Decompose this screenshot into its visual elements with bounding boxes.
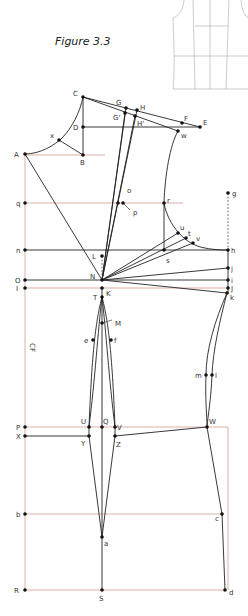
- point-label: h: [231, 247, 235, 255]
- point-marker: [100, 535, 104, 539]
- point-label: g: [232, 190, 236, 198]
- point-marker: [23, 248, 27, 252]
- point-label: c: [215, 515, 219, 523]
- point-label: p: [133, 209, 138, 217]
- point-marker: [100, 254, 104, 258]
- point-label: R: [14, 587, 19, 595]
- point-marker: [100, 286, 104, 290]
- point-label: M: [115, 320, 121, 328]
- point-marker: [204, 373, 208, 377]
- point-label: r: [167, 197, 170, 205]
- point-label: s: [166, 257, 170, 265]
- point-label: v: [196, 235, 200, 243]
- point-marker: [176, 129, 180, 133]
- point-label: u: [180, 224, 184, 232]
- point-label: H': [137, 120, 144, 128]
- point-label: U: [81, 418, 86, 426]
- point-label: l: [215, 372, 217, 380]
- point-marker: [198, 125, 202, 129]
- point-label: n: [16, 247, 20, 255]
- point-marker: [191, 241, 195, 245]
- point-label: I: [16, 285, 18, 293]
- point-marker: [225, 291, 229, 295]
- point-marker: [116, 201, 120, 205]
- point-label: C: [73, 90, 78, 98]
- bodice-pattern-diagram: ABCDxGHG'H'FEwqoprgnutvshLNOjiIJKkTMefml…: [0, 0, 248, 616]
- point-marker: [226, 278, 230, 282]
- point-marker: [87, 434, 91, 438]
- point-marker: [91, 338, 95, 342]
- point-label: d: [229, 589, 233, 597]
- point-label: q: [16, 200, 20, 208]
- point-label: x: [50, 132, 54, 140]
- point-label: V: [117, 424, 122, 432]
- point-label: N: [90, 273, 95, 281]
- point-label: e: [84, 337, 88, 345]
- point-marker: [81, 95, 85, 99]
- point-label: o: [127, 187, 131, 195]
- point-marker: [100, 588, 104, 592]
- point-marker: [121, 201, 125, 205]
- point-label: X: [16, 433, 21, 441]
- draft-lines: [25, 97, 228, 590]
- point-label: Y: [80, 440, 86, 448]
- point-label: H: [140, 104, 145, 112]
- point-marker: [135, 108, 139, 112]
- point-marker: [226, 191, 230, 195]
- point-marker: [23, 425, 27, 429]
- point-label: W: [209, 418, 216, 426]
- point-label: Z: [116, 441, 121, 449]
- point-marker: [23, 201, 27, 205]
- point-marker: [226, 286, 230, 290]
- point-marker: [210, 373, 214, 377]
- point-marker: [23, 286, 27, 290]
- point-marker: [109, 338, 113, 342]
- point-marker: [113, 434, 117, 438]
- point-marker: [81, 153, 85, 157]
- point-marker: [162, 201, 166, 205]
- point-label: L: [92, 253, 96, 261]
- point-label: G': [113, 114, 120, 122]
- point-label: A: [14, 151, 19, 159]
- point-label: m: [195, 372, 202, 380]
- point-marker: [123, 111, 127, 115]
- point-marker: [23, 512, 27, 516]
- point-label: k: [230, 294, 235, 302]
- point-label: Q: [103, 418, 109, 426]
- point-label: G: [116, 99, 121, 107]
- point-marker: [124, 106, 128, 110]
- point-label: S: [99, 595, 104, 603]
- point-label: w: [181, 132, 187, 140]
- point-label: f: [114, 337, 117, 345]
- point-marker: [226, 248, 230, 252]
- cf-label: CF: [28, 343, 36, 352]
- point-label: K: [106, 290, 111, 298]
- bodice-thumbnail: [173, 0, 248, 89]
- point-marker: [23, 434, 27, 438]
- point-label: b: [16, 511, 21, 519]
- point-label: i: [231, 277, 233, 285]
- point-marker: [220, 512, 224, 516]
- point-label: J: [230, 285, 233, 293]
- point-marker: [23, 278, 27, 282]
- point-marker: [23, 588, 27, 592]
- point-marker: [87, 425, 91, 429]
- point-label: O: [15, 277, 21, 285]
- point-label: T: [92, 294, 98, 302]
- point-marker: [100, 321, 104, 325]
- point-marker: [81, 125, 85, 129]
- point-marker: [57, 138, 61, 142]
- point-marker: [100, 278, 104, 282]
- point-marker: [226, 266, 230, 270]
- point-marker: [23, 152, 27, 156]
- point-label: E: [203, 119, 207, 127]
- point-label: t: [188, 230, 191, 238]
- point-label: a: [104, 540, 108, 548]
- point-marker: [223, 588, 227, 592]
- point-marker: [100, 295, 104, 299]
- point-label: P: [16, 424, 20, 432]
- point-marker: [133, 114, 137, 118]
- point-label: B: [80, 159, 85, 167]
- point-label: j: [230, 265, 233, 273]
- point-label: F: [184, 115, 188, 123]
